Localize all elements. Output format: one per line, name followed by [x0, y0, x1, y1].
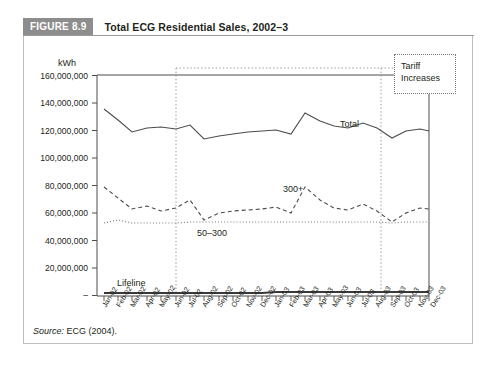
- source-note: Source: ECG (2004).: [33, 326, 117, 336]
- figure-header: FIGURE 8.9 Total ECG Residential Sales, …: [23, 18, 474, 35]
- source-note-text: ECG (2004).: [64, 326, 117, 336]
- figure-body: [23, 36, 473, 344]
- figure-title: Total ECG Residential Sales, 2002–3: [93, 18, 288, 35]
- figure-tag: FIGURE 8.9: [23, 18, 93, 35]
- figure-page: FIGURE 8.9 Total ECG Residential Sales, …: [0, 0, 497, 365]
- source-note-prefix: Source:: [33, 326, 64, 336]
